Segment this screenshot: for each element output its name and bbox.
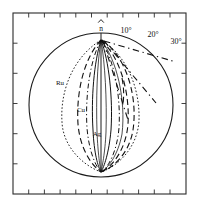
right-tick-marks xyxy=(182,43,187,164)
pole-figure-container: n 10° 20° 30° Ru Cu Ag xyxy=(0,0,198,210)
bottom-tick-marks xyxy=(29,190,170,195)
pole-figure-plot: n 10° 20° 30° Ru Cu Ag xyxy=(0,0,198,210)
angle-label-30: 30° xyxy=(170,37,181,46)
radial-angle-rays xyxy=(103,41,176,120)
axis-frame-group xyxy=(13,13,186,194)
pole-axis-label: n xyxy=(99,24,103,33)
plot-frame-border xyxy=(13,13,186,194)
curve-label-cu: Cu xyxy=(77,106,86,114)
angle-label-10: 10° xyxy=(120,26,131,35)
curve-label-ag: Ag xyxy=(93,130,102,138)
pole-axis-marker: n xyxy=(98,20,104,33)
curve-label-ru: Ru xyxy=(56,79,65,87)
curve-inner-fine-right xyxy=(101,40,106,172)
left-tick-marks xyxy=(13,43,18,164)
lens-curve-group xyxy=(62,40,139,172)
caret-hat-icon xyxy=(98,20,104,23)
ray-10deg xyxy=(103,41,128,120)
curve-inner-fine-left xyxy=(97,40,101,172)
angle-label-20: 20° xyxy=(147,30,158,39)
top-tick-marks xyxy=(29,13,170,18)
